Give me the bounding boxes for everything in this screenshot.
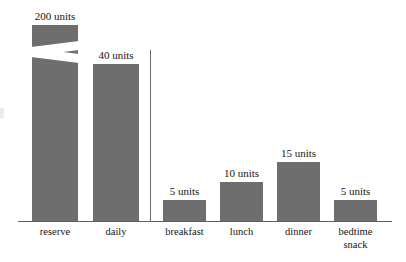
bar-bedtime-snack (334, 200, 377, 221)
bar-daily (93, 64, 139, 221)
bar-reserve (32, 25, 78, 221)
y-axis-remnant (0, 108, 4, 118)
value-label-reserve: 200 units (21, 10, 89, 22)
bar-lunch (220, 182, 263, 221)
value-label-daily: 40 units (82, 49, 150, 61)
category-label-bedtime-snack: bedtime snack (321, 226, 390, 251)
group-divider (150, 50, 151, 222)
value-label-lunch: 10 units (209, 167, 274, 179)
category-label-reserve: reserve (21, 226, 89, 239)
x-axis-baseline (18, 221, 392, 222)
bar-dinner (277, 162, 320, 221)
value-label-bedtime-snack: 5 units (323, 185, 388, 197)
value-label-dinner: 15 units (266, 147, 331, 159)
value-label-breakfast: 5 units (152, 185, 217, 197)
bar-chart: 200 units 40 units 5 units 10 units 15 u… (0, 0, 406, 262)
bar-breakfast (163, 200, 206, 221)
category-label-daily: daily (82, 226, 150, 239)
